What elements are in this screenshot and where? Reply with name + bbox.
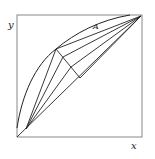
fan-line <box>80 16 141 78</box>
tie-lines-from-lower-pivot <box>26 49 71 129</box>
fan-line <box>56 16 141 49</box>
x-axis-label: x <box>131 141 137 151</box>
fan-line <box>26 57 63 129</box>
fan-line <box>26 67 71 129</box>
fan-line <box>26 49 56 129</box>
y-axis-label: y <box>8 20 14 30</box>
xy-diagram <box>0 0 155 159</box>
fan-line <box>71 16 141 67</box>
equilibrium-curve <box>17 15 130 128</box>
region-label-a: A <box>93 23 99 31</box>
